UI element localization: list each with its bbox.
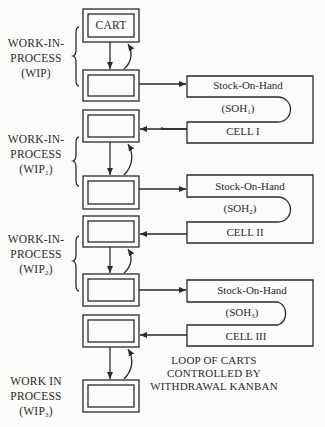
- wip-label-3: WORK IN PROCESS (WIP3): [2, 374, 70, 423]
- cell-3-title: Stock-On-Hand: [192, 284, 312, 296]
- cart-box-4: [83, 216, 139, 247]
- cart-box-6: [83, 315, 139, 347]
- cell-1-title: Stock-On-Hand: [188, 79, 308, 91]
- cart-box-5: [83, 274, 139, 306]
- cart-box-1: [83, 70, 139, 101]
- cart-box-2: [83, 110, 139, 142]
- cell-3-soh: (SOH3): [182, 306, 302, 320]
- cart-box-3: [83, 176, 139, 209]
- cell-2-name: CELL II: [185, 226, 305, 238]
- cart-label: CART: [88, 18, 134, 33]
- cell-2-title: Stock-On-Hand: [190, 180, 310, 192]
- cell-2-soh: (SOH2): [180, 202, 300, 216]
- wip-label-0: WORK-IN- PROCESS (WIP): [2, 36, 70, 81]
- cell-1-name: CELL I: [183, 125, 303, 137]
- wip-label-2: WORK-IN- PROCESS (WIP2): [2, 232, 70, 281]
- cell-3-name: CELL III: [186, 330, 306, 342]
- wip-label-1: WORK-IN- PROCESS (WIP1): [2, 132, 70, 181]
- cart-box-7: [83, 380, 139, 412]
- cell-1-soh: (SOH1): [178, 102, 298, 116]
- loop-note: LOOP OF CARTS CONTROLLED BY WITHDRAWAL K…: [144, 354, 284, 393]
